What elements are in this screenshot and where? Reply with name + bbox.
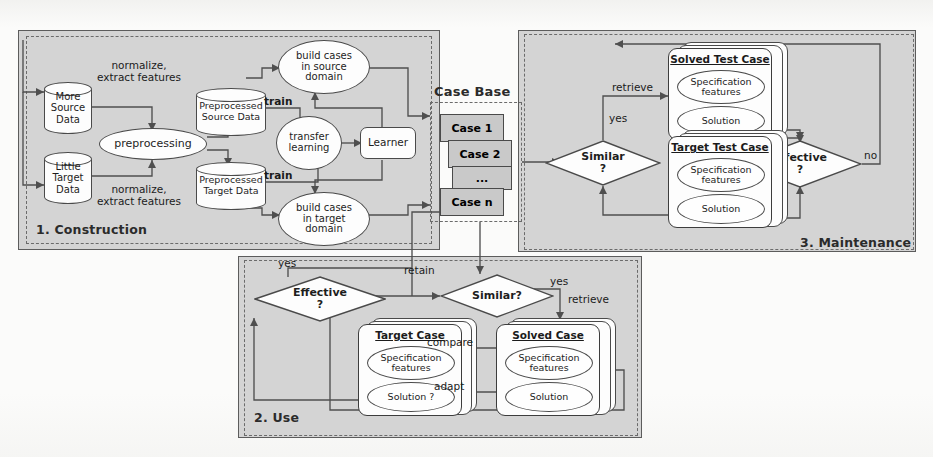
solved-test-case-spec: Specification features bbox=[677, 70, 765, 104]
node-learner: Learner bbox=[360, 127, 416, 159]
db-target-line1: Little bbox=[55, 161, 80, 172]
decision-similar-use: Similar? bbox=[440, 274, 554, 318]
db-target-line2: Target bbox=[53, 172, 84, 183]
edge-yes-use-left: yes bbox=[278, 258, 296, 270]
use-label: 2. Use bbox=[254, 410, 299, 425]
edge-compare-use: compare bbox=[427, 337, 473, 349]
normalize-bot-l2: extract features bbox=[97, 196, 181, 208]
target-test-case-spec: Specification features bbox=[677, 158, 765, 192]
node-build-cases-target-domain: build cases in target domain bbox=[278, 192, 370, 246]
solved-case-title: Solved Case bbox=[496, 329, 600, 341]
case-item-2: Case 2 bbox=[448, 140, 512, 168]
spec-l2: features bbox=[391, 363, 430, 373]
node-transfer-learning: transfer learning bbox=[276, 116, 342, 170]
edge-train-top: train bbox=[264, 96, 292, 108]
target-test-case-solution: Solution bbox=[677, 194, 765, 224]
construction-label: 1. Construction bbox=[36, 222, 147, 237]
db-target-line3: Data bbox=[56, 184, 80, 195]
edge-yes-use-right: yes bbox=[550, 276, 568, 288]
edge-adapt-use: adapt bbox=[434, 381, 464, 393]
edge-normalize-bottom: normalize, extract features bbox=[97, 184, 181, 207]
pp-source-line2: Source Data bbox=[202, 112, 260, 123]
transfer-l2: learning bbox=[289, 143, 330, 154]
framework-diagram: 1. Construction 3. Maintenance 2. Use Ca… bbox=[0, 0, 933, 457]
card-target-test-case: Target Test Case Specification features … bbox=[668, 130, 788, 230]
spec-l2: features bbox=[701, 175, 740, 185]
build-src-l3: domain bbox=[305, 72, 342, 83]
normalize-top-l2: extract features bbox=[97, 72, 181, 84]
db-more-source-data: More Source Data bbox=[44, 82, 92, 134]
db-little-target-data: Little Target Data bbox=[44, 152, 92, 204]
normalize-top-l1: normalize, bbox=[97, 60, 181, 72]
db-preprocessed-target-data: Preprocessed Target Data bbox=[196, 162, 266, 210]
edge-retrieve-use: retrieve bbox=[568, 294, 609, 306]
pp-target-line2: Target Data bbox=[203, 186, 258, 197]
solved-test-case-title: Solved Test Case bbox=[668, 53, 772, 65]
case-base-stack: Case 1 Case 2 ... Case n bbox=[430, 102, 522, 222]
similar-use-label: Similar? bbox=[472, 290, 522, 302]
decision-effective-use: Effective ? bbox=[254, 276, 386, 322]
node-build-cases-source-domain: build cases in source domain bbox=[278, 40, 370, 94]
target-test-case-title: Target Test Case bbox=[668, 141, 772, 153]
db-source-line2: Source bbox=[51, 102, 85, 113]
target-case-spec: Specification features bbox=[367, 346, 455, 380]
case-item-n: Case n bbox=[440, 188, 504, 216]
edge-yes-maintenance: yes bbox=[609, 113, 627, 125]
similar-maint-l2: ? bbox=[600, 163, 606, 175]
card-solved-case: Solved Case Specification features Solut… bbox=[496, 318, 620, 418]
solved-case-solution: Solution bbox=[505, 382, 593, 412]
db-preprocessed-source-data: Preprocessed Source Data bbox=[196, 88, 266, 136]
solved-case-spec: Specification features bbox=[505, 346, 593, 380]
edge-normalize-top: normalize, extract features bbox=[97, 60, 181, 83]
effective-use-l2: ? bbox=[317, 299, 323, 311]
decision-similar-maintenance: Similar ? bbox=[545, 140, 661, 186]
db-source-line1: More bbox=[56, 91, 81, 102]
edge-train-bottom: train bbox=[264, 170, 292, 182]
card-target-case: Target Case Specification features Solut… bbox=[358, 318, 478, 418]
edge-retrieve-maintenance: retrieve bbox=[612, 82, 653, 94]
db-source-line3: Data bbox=[56, 114, 80, 125]
build-tgt-l1: build cases bbox=[296, 203, 352, 214]
effective-maint-l2: ? bbox=[797, 164, 803, 176]
case-item-ellipsis: ... bbox=[452, 166, 512, 190]
build-src-l1: build cases bbox=[296, 51, 352, 62]
spec-l2: features bbox=[529, 363, 568, 373]
case-base-title: Case Base bbox=[434, 84, 510, 99]
maintenance-label: 3. Maintenance bbox=[800, 235, 911, 250]
edge-no-maintenance: no bbox=[864, 150, 877, 162]
case-item-1: Case 1 bbox=[440, 114, 504, 142]
spec-l2: features bbox=[701, 87, 740, 97]
node-preprocessing: preprocessing bbox=[99, 128, 207, 160]
card-solved-test-case: Solved Test Case Specification features … bbox=[668, 42, 788, 138]
build-tgt-l3: domain bbox=[305, 224, 342, 235]
normalize-bot-l1: normalize, bbox=[97, 184, 181, 196]
edge-retain-use: retain bbox=[404, 265, 435, 277]
